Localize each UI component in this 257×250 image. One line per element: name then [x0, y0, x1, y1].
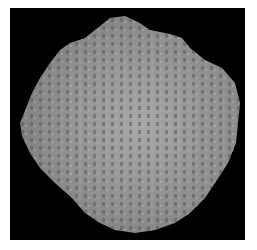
micrograph-frame	[10, 8, 245, 240]
tissue-specimen	[10, 8, 245, 240]
